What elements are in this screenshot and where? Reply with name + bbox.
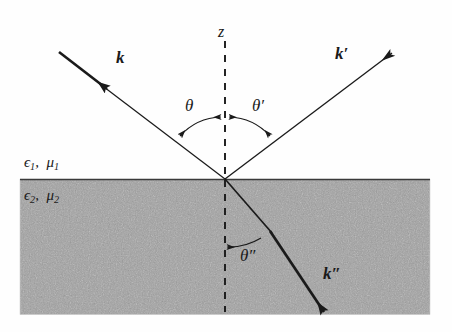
z-axis-label: z	[218, 24, 224, 40]
medium1-mu-subscript: 1	[54, 161, 59, 172]
angle-refraction-label: θ″	[240, 247, 256, 264]
incident-ray	[59, 52, 225, 179]
transmitted-wavevector-symbol: k	[323, 264, 332, 283]
angle-arc-theta-prime	[229, 117, 270, 136]
medium2-mu-subscript: 2	[54, 194, 59, 205]
angle-reflection-prime: ′	[260, 96, 264, 115]
angle-reflection-label: θ′	[252, 97, 265, 114]
diagram-canvas	[0, 0, 452, 332]
reflected-wavevector-symbol: k	[335, 44, 344, 63]
reflected-wavevector-prime: ′	[344, 44, 349, 63]
medium1-comma: ,	[35, 154, 39, 170]
medium1-mu-symbol: μ	[46, 154, 54, 170]
angle-arc-theta	[180, 117, 221, 136]
medium2-mu-symbol: μ	[46, 187, 54, 203]
transmitted-wavevector-label: k″	[323, 265, 341, 282]
medium2-comma: ,	[35, 187, 39, 203]
angle-refraction-prime: ″	[248, 246, 256, 265]
medium1-label: ϵ1, μ1	[24, 155, 59, 172]
angle-incidence-label: θ	[185, 97, 193, 114]
reflected-ray	[225, 53, 392, 179]
transmitted-wavevector-prime: ″	[332, 264, 342, 283]
refraction-diagram: z k k′ k″ θ θ′ θ″ ϵ1, μ1 ϵ2, μ2	[0, 0, 452, 332]
medium2-label: ϵ2, μ2	[24, 188, 59, 205]
reflected-wavevector-label: k′	[335, 45, 349, 62]
incident-wavevector-label: k	[116, 49, 125, 66]
